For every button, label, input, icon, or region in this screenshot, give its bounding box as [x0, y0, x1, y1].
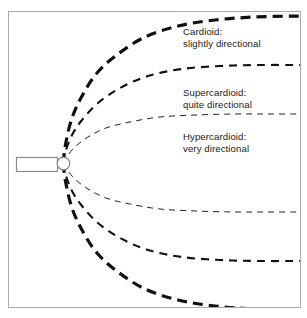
label-supercardioid: Supercardioid: quite directional: [183, 87, 252, 112]
label-hypercardioid-line1: Hypercardioid:: [183, 131, 249, 143]
microphone-capsule: [57, 157, 70, 170]
label-hypercardioid-line2: very directional: [183, 143, 249, 155]
microphone-body: [17, 158, 58, 172]
label-cardioid: Cardioid: slightly directional: [183, 26, 261, 51]
label-hypercardioid: Hypercardioid: very directional: [183, 131, 249, 156]
diagram-canvas: [0, 0, 307, 318]
label-cardioid-line2: slightly directional: [183, 38, 261, 50]
label-cardioid-line1: Cardioid:: [183, 26, 261, 38]
label-supercardioid-line1: Supercardioid:: [183, 87, 252, 99]
polar-pattern-figure: Cardioid: slightly directional Supercard…: [0, 0, 307, 318]
label-supercardioid-line2: quite directional: [183, 99, 252, 111]
